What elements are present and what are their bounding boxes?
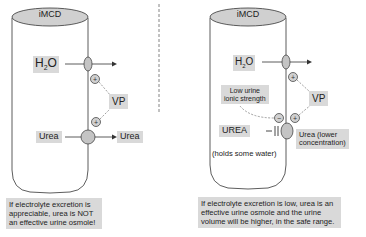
svg-text:+: +	[293, 115, 297, 122]
svg-text:+: +	[93, 76, 97, 83]
left-vp-label: VP	[109, 94, 128, 109]
right-urea-note: (holds some water)	[212, 149, 277, 158]
right-caption: If electrolyte excretion is low, urea is…	[198, 197, 341, 228]
right-water-label: H2O	[233, 55, 255, 71]
right-duct-label: iMCD	[234, 9, 262, 19]
right-vp-label: VP	[309, 91, 328, 106]
left-duct-cylinder	[12, 8, 88, 193]
right-urea-label: UREA	[219, 125, 250, 137]
right-ionic-strength-label: Low urineionic strength	[221, 85, 269, 104]
left-urea-out-label: Urea	[117, 131, 143, 143]
right-water-arrowhead	[307, 60, 312, 65]
right-urea-transporter	[281, 123, 293, 139]
left-duct-label: iMCD	[36, 9, 64, 19]
left-aquaporin-channel	[84, 57, 92, 71]
left-water-label: H2O	[33, 56, 59, 73]
svg-text:−: −	[277, 115, 281, 122]
right-urea-out-label: Urea (lowerconcentration)	[296, 129, 349, 149]
left-caption: If electrolyte excretion is appreciable,…	[6, 198, 102, 229]
left-urea-transporter	[81, 130, 95, 144]
left-urea-in-label: Urea	[36, 131, 62, 143]
svg-text:+: +	[291, 74, 295, 81]
svg-text:+: +	[94, 119, 98, 126]
left-water-arrowhead	[112, 62, 117, 67]
right-aquaporin-channel	[282, 55, 290, 69]
